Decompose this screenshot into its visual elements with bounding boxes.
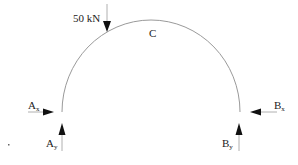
bx-label-sub: x <box>281 105 285 113</box>
ax-label: Ax <box>28 100 39 111</box>
bx-arrow-icon <box>250 109 277 116</box>
arch-diagram: 50 kN C Ax Ay Bx By <box>0 0 298 165</box>
ax-label-base: A <box>28 99 36 111</box>
ay-label-sub: y <box>54 143 58 151</box>
ay-label: Ay <box>46 138 57 149</box>
ay-label-base: A <box>46 137 54 149</box>
stray-dot <box>8 144 10 146</box>
ax-label-sub: x <box>36 105 40 113</box>
load-arrow-icon <box>103 4 111 32</box>
ay-arrow-icon <box>59 123 66 151</box>
crown-label: C <box>149 28 156 39</box>
by-label: By <box>222 138 233 149</box>
by-arrow-icon <box>236 123 243 151</box>
load-label: 50 kN <box>73 13 100 24</box>
bx-label: Bx <box>274 100 285 111</box>
by-label-sub: y <box>229 143 233 151</box>
diagram-graphics <box>0 0 298 165</box>
